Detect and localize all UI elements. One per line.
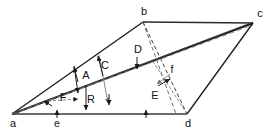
vertex-label-a: a (10, 117, 17, 129)
vertex-label-d: d (185, 117, 191, 129)
figure-canvas: a b c d A C D E F R e f (0, 0, 272, 132)
vector-diagram-figure: a b c d A C D E F R e f (0, 0, 272, 132)
vector-F-origin-arrow (44, 101, 52, 106)
edge-b-c (143, 22, 253, 23)
edge-a-c-thin-upper (12, 22, 253, 114)
vector-label-R: R (87, 93, 95, 105)
vector-label-D: D (134, 43, 142, 55)
edge-d-b-thin (152, 60, 187, 114)
edge-c-d (187, 23, 253, 114)
edges-layer (12, 22, 253, 114)
edge-b-d-dashed (143, 22, 187, 114)
vertex-label-b: b (141, 5, 147, 17)
vector-label-F: F (60, 91, 67, 103)
vector-label-f: f (171, 63, 174, 75)
edge-a-b (12, 22, 143, 114)
vector-label-A: A (82, 69, 90, 81)
vertex-label-c: c (257, 7, 263, 19)
vector-label-C: C (101, 59, 109, 71)
vector-label-E: E (151, 89, 158, 101)
vector-label-e: e (54, 117, 60, 129)
